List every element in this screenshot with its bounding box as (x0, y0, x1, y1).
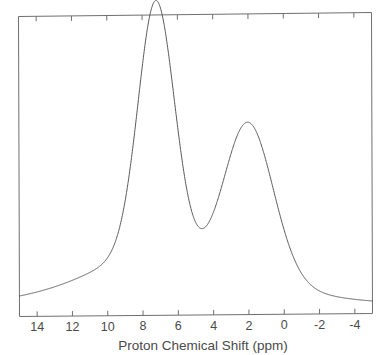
x-tick-label: 4 (210, 319, 217, 333)
x-tick-label: 10 (101, 320, 115, 334)
x-tick-label: 2 (245, 319, 252, 333)
x-tick-label: 0 (281, 318, 288, 332)
figure-background (0, 0, 389, 355)
nmr-spectrum-figure: 14121086420-2-4 Proton Chemical Shift (p… (0, 0, 389, 355)
x-tick-label: -2 (314, 318, 325, 332)
x-axis-title: Proton Chemical Shift (ppm) (118, 338, 288, 353)
x-tick-label: 12 (65, 320, 79, 334)
x-tick-label: 8 (140, 319, 147, 333)
chart-canvas: 14121086420-2-4 Proton Chemical Shift (p… (0, 0, 389, 355)
x-tick-label: -4 (349, 318, 360, 332)
x-tick-label: 6 (175, 319, 182, 333)
x-tick-label: 14 (30, 320, 44, 334)
